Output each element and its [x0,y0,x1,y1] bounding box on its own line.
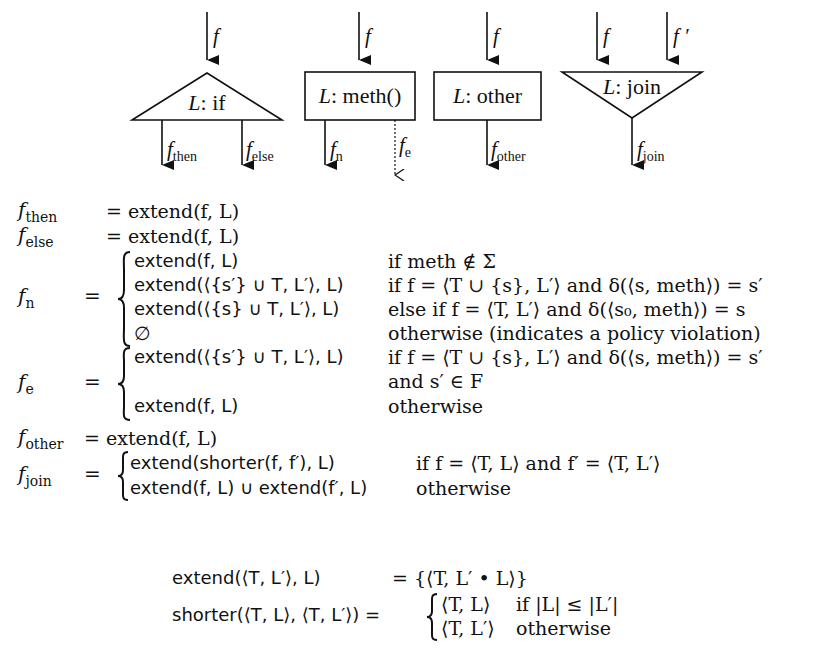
shorter-def-lhs: shorter(⟨T, L⟩, ⟨T, L′⟩) = [172,603,380,627]
eq-e-case1-value: extend(⟨{s′} ∪ T, L′⟩, L) [134,345,343,369]
eq-n-case2-cond: if f = ⟨T ∪ {s}, L′⟩ and δ(⟨s, meth⟩) = … [388,273,763,297]
join-output-label: fjoin [637,137,665,165]
join-input-fprime-label: f ′ [673,24,689,49]
eq-n-equals: = [84,284,101,308]
eq-join-case1-value: extend(shorter(f, f′), L) [130,451,335,475]
if-node-label: L: if [172,90,242,116]
eq-join-case2-value: extend(f, L) ∪ extend(f′, L) [130,476,367,500]
eq-join-brace [116,450,130,502]
if-input-label: f [213,24,219,49]
shorter-def-case2-value: ⟨T, L′⟩ [441,616,495,640]
eq-join-lhs: fjoin [18,462,52,489]
eq-e-case2-value: extend(f, L) [134,394,238,418]
join-node-label: L: join [597,74,667,100]
eq-n-case3-cond: else if f = ⟨T, L′⟩ and δ(⟨s₀, meth⟩) = … [388,297,745,321]
other-input-label: f [493,24,499,49]
eq-then-rhs: = extend(f, L) [106,199,239,223]
eq-n-case3-value: extend(⟨{s} ∪ T, L′⟩, L) [134,297,339,321]
eq-n-case4-value: ∅ [134,321,151,345]
shorter-def-brace [425,592,439,642]
flow-diagram: f L: if fthen felse f L: meth() fn fe f … [0,0,830,190]
other-node-label: L: other [434,83,541,109]
eq-join-equals: = [84,462,101,486]
eq-n-case1-cond: if meth ∉ Σ [388,249,496,273]
eq-else-lhs: felse [18,223,54,250]
extend-def-rhs: = {⟨T, L′ • L⟩} [392,566,528,590]
eq-e-equals: = [84,370,101,394]
eq-e-case2-cond: otherwise [388,394,483,418]
eq-n-lhs: fn [18,284,34,311]
meth-input-label: f [365,24,371,49]
eq-e-brace [116,346,132,422]
eq-else-rhs: = extend(f, L) [106,224,239,248]
other-output-label: fother [491,137,526,165]
eq-other-rhs: = extend(f, L) [84,426,217,450]
eq-e-lhs: fe [18,370,34,397]
shorter-def-case2-cond: otherwise [516,616,611,640]
eq-e-case1-cond-cont: and s′ ∈ F [388,369,483,393]
eq-n-case4-cond: otherwise (indicates a policy violation) [388,321,761,345]
meth-e-output-label: fe [399,133,411,161]
eq-join-case2-cond: otherwise [416,476,511,500]
eq-n-brace [116,250,132,348]
diagram-shapes [0,0,830,190]
if-then-output-label: fthen [167,137,197,165]
meth-node-label: L: meth() [305,83,415,109]
eq-n-case2-value: extend(⟨{s′} ∪ T, L′⟩, L) [134,273,343,297]
shorter-def-case1-cond: if |L| ≤ |L′| [516,592,618,616]
if-else-output-label: felse [246,137,274,165]
eq-e-case1-cond: if f = ⟨T ∪ {s}, L′⟩ and δ(⟨s, meth⟩) = … [388,345,763,369]
eq-n-case1-value: extend(f, L) [134,249,238,273]
eq-other-lhs: fother [18,425,63,452]
eq-then-lhs: fthen [18,198,57,225]
shorter-def-case1-value: ⟨T, L⟩ [441,592,490,616]
meth-n-output-label: fn [330,137,343,165]
eq-join-case1-cond: if f = ⟨T, L⟩ and f′ = ⟨T, L′⟩ [416,451,660,475]
join-input-f-label: f [603,24,609,49]
extend-def-lhs: extend(⟨T, L′⟩, L) [172,566,321,590]
